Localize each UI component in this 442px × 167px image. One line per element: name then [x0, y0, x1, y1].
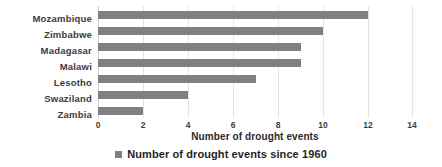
- bar-zambia: [98, 107, 143, 115]
- bar-madagasar: [98, 43, 301, 51]
- bar-zimbabwe: [98, 27, 323, 35]
- gridline: [412, 6, 413, 118]
- bar-lesotho: [98, 75, 256, 83]
- category-label: Mozambique: [0, 14, 92, 24]
- tick-label: 4: [186, 120, 191, 130]
- tick-label: 6: [231, 120, 236, 130]
- plot-area: [98, 6, 412, 118]
- category-label: Madagasar: [0, 46, 92, 56]
- tick-label: 2: [141, 120, 146, 130]
- square-marker-icon: [115, 151, 122, 158]
- tick-label: 14: [407, 120, 416, 130]
- category-label: Zambia: [0, 110, 92, 120]
- bar-mozambique: [98, 11, 368, 19]
- category-axis-labels: Mozambique Zimbabwe Madagasar Malawi Les…: [0, 6, 92, 118]
- category-label: Swaziland: [0, 94, 92, 104]
- category-label: Lesotho: [0, 78, 92, 88]
- chart-legend: Number of drought events since 1960: [0, 148, 442, 160]
- x-axis-title: Number of drought events: [98, 131, 412, 142]
- bar-chart: Mozambique Zimbabwe Madagasar Malawi Les…: [0, 0, 442, 167]
- category-label: Malawi: [0, 62, 92, 72]
- tick-label: 10: [318, 120, 327, 130]
- tick-label: 8: [276, 120, 281, 130]
- bar-swaziland: [98, 91, 188, 99]
- bar-malawi: [98, 59, 301, 67]
- tick-label: 12: [363, 120, 372, 130]
- category-label: Zimbabwe: [0, 30, 92, 40]
- legend-label: Number of drought events since 1960: [127, 148, 327, 160]
- tick-label: 0: [96, 120, 101, 130]
- bars-layer: [98, 6, 412, 118]
